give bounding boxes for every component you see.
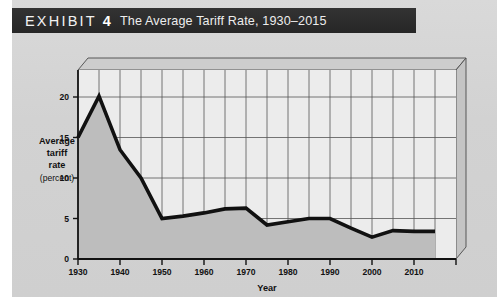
x-tick-label-1950: 1950: [152, 267, 171, 277]
x-tick-label-1960: 1960: [194, 267, 213, 277]
y-tick-label-0: 0: [64, 254, 69, 264]
y-axis-title-line-2: tariff: [47, 148, 68, 158]
x-axis-title: Year: [257, 283, 277, 293]
y-tick-label-5: 5: [64, 214, 69, 224]
y-axis-title-line-4: (percent): [40, 173, 75, 183]
x-tick-label-1940: 1940: [110, 267, 129, 277]
x-tick-label-1990: 1990: [320, 267, 339, 277]
x-tick-label-1930: 1930: [68, 267, 87, 277]
x-tick-label-2010: 2010: [404, 267, 423, 277]
exhibit-figure: EXHIBIT 4 The Average Tariff Rate, 1930–…: [0, 0, 497, 297]
x-tick-label-1970: 1970: [236, 267, 255, 277]
plot-box-top-face: [78, 58, 466, 70]
x-tick-label-2000: 2000: [362, 267, 381, 277]
plot-box-right-face: [456, 58, 466, 259]
tariff-rate-chart: 0 5 10 15 20 1930 1940 1950 1960: [0, 0, 497, 297]
y-axis-title-line-3: rate: [49, 160, 66, 170]
x-tick-label-1980: 1980: [278, 267, 297, 277]
chart-container: 0 5 10 15 20 1930 1940 1950 1960: [0, 0, 497, 297]
y-tick-label-20: 20: [59, 92, 69, 102]
y-axis-title-line-1: Average: [39, 136, 75, 146]
